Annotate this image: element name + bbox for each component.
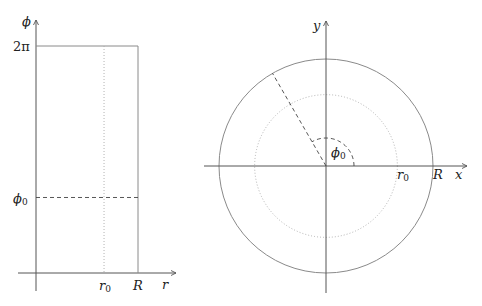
right-r0-label: r0: [397, 167, 409, 183]
left-R-tick-label: R: [132, 278, 143, 293]
diagram-canvas: ϕ 2π ϕ0 r0 R r y x r0 R ϕ0: [0, 0, 482, 306]
right-y-axis-label: y: [312, 18, 321, 33]
left-r-axis-label: r: [162, 277, 169, 292]
left-r0-tick-label: r0: [99, 278, 111, 294]
right-x-axis-label: x: [455, 167, 463, 182]
left-phi0-tick-label: ϕ0: [13, 191, 28, 207]
right-figure: y x r0 R ϕ0: [204, 18, 467, 293]
left-figure: ϕ 2π ϕ0 r0 R r: [13, 14, 176, 294]
left-2pi-tick-label: 2π: [13, 39, 30, 54]
left-phi-axis-label: ϕ: [22, 14, 31, 29]
right-phi0-label: ϕ0: [331, 145, 346, 161]
phi0-dashed-ray: [273, 73, 327, 166]
right-R-label: R: [432, 167, 443, 182]
